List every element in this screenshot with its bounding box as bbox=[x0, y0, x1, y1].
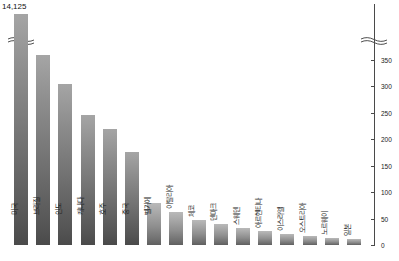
y-axis-tick-mark bbox=[371, 113, 375, 114]
bar-chart: 14,125 050100150200250300350 미국브라질인도캐나다호… bbox=[0, 0, 399, 261]
bar[interactable] bbox=[236, 228, 250, 245]
y-axis-tick-label: 0 bbox=[381, 242, 385, 249]
bar[interactable] bbox=[125, 152, 139, 245]
bar[interactable] bbox=[347, 239, 361, 245]
y-axis-tick-label: 150 bbox=[381, 162, 392, 169]
bar-category-label: 이스라엘 bbox=[277, 207, 284, 231]
bar-category-label: 이탈리아 bbox=[166, 185, 173, 209]
bar[interactable] bbox=[81, 115, 95, 245]
bar-category-label: 캐나다 bbox=[77, 197, 84, 215]
bar-category-label: 일본 bbox=[344, 224, 351, 236]
plot-area: 14,125 050100150200250300350 미국브라질인도캐나다호… bbox=[0, 0, 399, 261]
bar-category-label: 중국 bbox=[122, 203, 129, 215]
bar-category-label: 인도 bbox=[55, 203, 62, 215]
bar-category-label: 아르헨티나 bbox=[255, 198, 262, 228]
data-label-top-bar: 14,125 bbox=[2, 2, 26, 11]
bar[interactable] bbox=[325, 238, 339, 245]
y-axis-tick-label: 50 bbox=[381, 215, 388, 222]
y-axis-tick-mark bbox=[371, 60, 375, 61]
bar-category-label: 브라질 bbox=[33, 197, 40, 215]
bar-category-label: 체코 bbox=[188, 205, 195, 217]
y-axis-tick-mark bbox=[371, 192, 375, 193]
y-axis-tick-mark bbox=[371, 86, 375, 87]
bar-category-label: 호주 bbox=[99, 203, 106, 215]
bar-category-label: 스웨덴 bbox=[233, 207, 240, 225]
bar-category-label: 오스트리아 bbox=[299, 203, 306, 233]
bar-category-label: 노르웨이 bbox=[321, 211, 328, 235]
bar[interactable] bbox=[36, 55, 50, 245]
bar[interactable] bbox=[192, 220, 206, 245]
y-axis-tick-label: 200 bbox=[381, 136, 392, 143]
bar-category-label: 벨기에 bbox=[144, 197, 151, 215]
bar[interactable] bbox=[258, 231, 272, 245]
y-axis-tick-mark bbox=[371, 245, 375, 246]
bar[interactable] bbox=[58, 84, 72, 245]
y-axis-tick-label: 250 bbox=[381, 109, 392, 116]
y-axis-tick-label: 350 bbox=[381, 56, 392, 63]
bar[interactable] bbox=[103, 129, 117, 245]
bar[interactable] bbox=[280, 234, 294, 245]
bar-category-label: 미국 bbox=[11, 203, 18, 215]
y-axis-tick-mark bbox=[371, 166, 375, 167]
bar[interactable] bbox=[214, 224, 228, 245]
y-axis-right: 050100150200250300350 bbox=[374, 8, 375, 245]
y-axis-tick-label: 100 bbox=[381, 189, 392, 196]
bar[interactable] bbox=[303, 236, 317, 245]
bar[interactable] bbox=[169, 212, 183, 245]
y-axis-tick-mark bbox=[371, 219, 375, 220]
bar-category-label: 덴마크 bbox=[210, 203, 217, 221]
y-axis-tick-mark bbox=[371, 139, 375, 140]
y-axis-tick-label: 300 bbox=[381, 83, 392, 90]
